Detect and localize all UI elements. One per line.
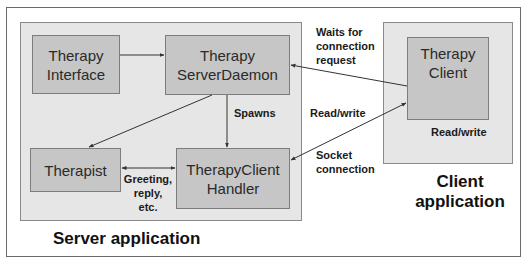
label-line: application: [405, 192, 515, 212]
label-line: Client: [405, 172, 515, 192]
edge-label-greeting: Greeting, reply, etc.: [122, 172, 174, 214]
arrow-daemon-to-therapist: [89, 95, 212, 147]
client-application-label: Client application: [405, 172, 515, 212]
edge-label-spawns: Spawns: [234, 106, 276, 120]
edge-label-line: etc.: [122, 200, 174, 214]
edge-label-line: Waits for: [316, 25, 375, 39]
edge-label-line: request: [316, 53, 375, 67]
edge-label-socket: Socket connection: [316, 148, 375, 176]
edge-label-line: connection: [316, 39, 375, 53]
edge-label-line: connection: [316, 162, 375, 176]
edge-label-waits: Waits for connection request: [316, 25, 375, 67]
edge-label-read-write-client: Read/write: [431, 125, 487, 139]
edge-label-line: Greeting,: [122, 172, 174, 186]
edge-label-line: reply,: [122, 186, 174, 200]
arrow-client-to-daemon: [291, 65, 407, 86]
server-application-label: Server application: [53, 229, 200, 249]
edge-label-line: Socket: [316, 148, 375, 162]
edge-label-read-write-mid: Read/write: [310, 106, 366, 120]
